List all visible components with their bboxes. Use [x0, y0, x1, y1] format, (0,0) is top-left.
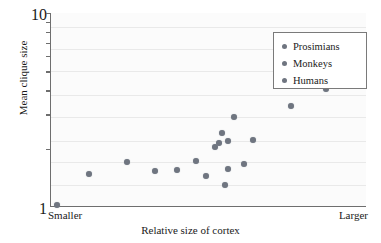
- data-point: [288, 103, 294, 109]
- data-point: [225, 138, 231, 144]
- y-axis-tick: [46, 149, 51, 150]
- legend-item-label: Monkeys: [293, 58, 332, 69]
- y-axis-tick: [46, 22, 51, 23]
- data-point: [152, 168, 158, 174]
- data-point: [174, 167, 180, 173]
- data-point: [193, 158, 199, 164]
- gridline: [51, 162, 366, 163]
- legend-marker-icon: [282, 44, 287, 49]
- data-point: [225, 166, 231, 172]
- y-axis-tick-label-bottom: 1: [31, 200, 47, 218]
- legend-item-label: Humans: [293, 75, 328, 86]
- data-point: [86, 171, 92, 177]
- y-axis-title: Mean clique size: [17, 8, 29, 148]
- y-axis-tick: [46, 71, 51, 72]
- y-axis-tick: [46, 13, 51, 14]
- data-point: [250, 137, 256, 143]
- gridline: [51, 141, 366, 142]
- data-point: [216, 140, 222, 146]
- legend-item[interactable]: Humans: [282, 72, 366, 88]
- data-point: [219, 130, 225, 136]
- legend-marker-icon: [282, 61, 287, 66]
- x-axis-label-larger: Larger: [339, 209, 368, 221]
- y-axis-tick: [46, 32, 51, 33]
- y-axis-tick-label-top: 10: [27, 6, 47, 24]
- y-axis-tick: [46, 90, 51, 91]
- y-axis-tick: [46, 43, 51, 44]
- x-axis-title: Relative size of cortex: [0, 224, 381, 236]
- data-point: [124, 159, 130, 165]
- legend-item-label: Prosimians: [293, 41, 340, 52]
- data-point: [203, 173, 209, 179]
- legend-item[interactable]: Monkeys: [282, 55, 366, 71]
- gridline: [51, 95, 366, 96]
- data-point: [54, 202, 60, 208]
- y-axis-tick: [46, 56, 51, 57]
- data-point: [241, 161, 247, 167]
- scatter-plot-figure: 10 1 Mean clique size Smaller Larger Rel…: [0, 0, 381, 243]
- data-point: [231, 114, 237, 120]
- x-axis-label-smaller: Smaller: [48, 209, 82, 221]
- legend-marker-icon: [282, 78, 287, 83]
- legend-item[interactable]: Prosimians: [282, 38, 366, 54]
- data-point: [222, 182, 228, 188]
- y-axis-tick: [46, 114, 51, 115]
- gridline: [51, 117, 366, 118]
- gridline: [51, 185, 366, 186]
- gridline: [51, 27, 366, 28]
- legend-box: ProsimiansMonkeysHumans: [273, 32, 367, 89]
